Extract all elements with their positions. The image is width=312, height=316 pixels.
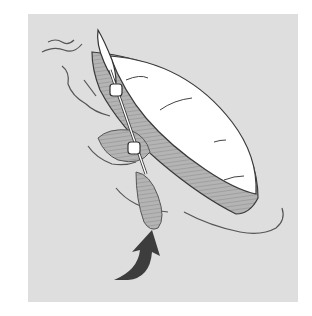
roll-arrow-icon	[114, 230, 160, 280]
paddle-grip-upper	[110, 84, 122, 96]
paddle-grip-lower	[128, 142, 140, 154]
kayak-roll-illustration	[0, 0, 312, 316]
